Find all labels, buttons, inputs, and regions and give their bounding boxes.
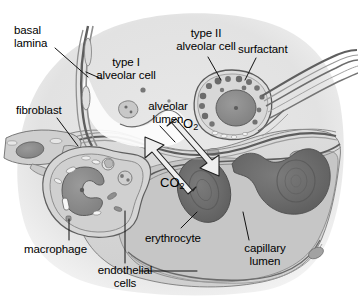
co2-sub: 2	[180, 181, 185, 191]
label-capillary-lumen: capillary lumen	[234, 242, 296, 267]
o2-base: O	[183, 116, 193, 131]
o2-sub: 2	[193, 122, 198, 132]
label-endothelial-cells: endothelial cells	[71, 264, 179, 289]
alveolus-diagram: basal lamina type I alveolar cell type I…	[0, 0, 358, 306]
label-type-i-alveolar-cell: type I alveolar cell	[80, 56, 172, 81]
label-basal-lamina: basal lamina	[14, 24, 47, 49]
co2-base: CO	[160, 175, 180, 190]
label-o2: O2	[183, 117, 198, 132]
label-macrophage: macrophage	[24, 243, 87, 256]
label-fibroblast: fibroblast	[16, 104, 62, 117]
label-co2: CO2	[160, 176, 185, 191]
label-surfactant: surfactant	[238, 43, 288, 56]
label-erythrocyte: erythrocyte	[145, 232, 201, 245]
